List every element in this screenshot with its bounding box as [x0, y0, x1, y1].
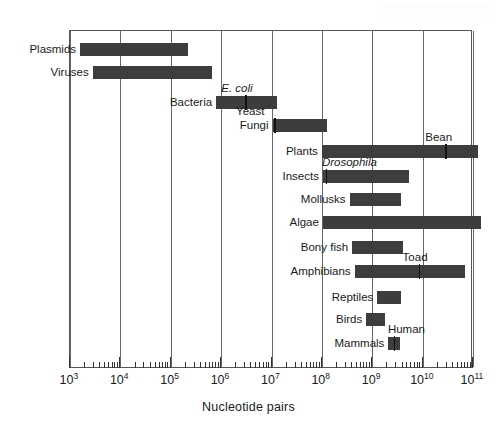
range-bar	[323, 216, 481, 229]
axis-tick-minor	[313, 362, 314, 368]
axis-tick-minor	[200, 362, 201, 368]
axis-tick-minor	[414, 362, 415, 368]
axis-tick-minor	[84, 362, 85, 368]
genome-size-range-chart: PlasmidsVirusesBacteriaE. coliFungiYeast…	[0, 0, 497, 434]
axis-tick-minor	[363, 362, 364, 368]
axis-tick-minor	[114, 362, 115, 368]
axis-tick-minor	[218, 362, 219, 368]
bar-label-birds: Birds	[336, 313, 362, 326]
bar-row: BacteriaE. coli	[70, 96, 471, 109]
marker-label-e-coli: E. coli	[221, 82, 252, 94]
axis-tick-major-1e9	[371, 357, 372, 368]
axis-tick-minor	[306, 362, 307, 368]
axis-tick-minor	[319, 362, 320, 368]
bar-row: Plasmids	[70, 43, 471, 56]
range-bar	[273, 119, 327, 132]
axis-tick-minor	[452, 362, 453, 368]
bar-label-insects: Insects	[282, 170, 318, 183]
marker-label-yeast: Yeast	[236, 105, 264, 117]
bar-row: Algae	[70, 216, 471, 229]
axis-tick-minor	[167, 362, 168, 368]
axis-tick-minor	[446, 362, 447, 368]
marker-tick-human	[394, 336, 396, 351]
bar-row: FungiYeast	[70, 119, 471, 132]
axis-tick-minor	[417, 362, 418, 368]
bar-label-viruses: Viruses	[51, 66, 89, 79]
axis-tick-label-1e3: 103	[60, 373, 79, 387]
bar-label-algae: Algae	[289, 216, 318, 229]
axis-tick-minor	[159, 362, 160, 368]
axis-tick-minor	[470, 362, 471, 368]
axis-tick-minor	[209, 362, 210, 368]
marker-tick-drosophila	[326, 169, 328, 184]
axis-tick-label-1e6: 106	[211, 373, 230, 387]
range-bar	[93, 66, 212, 79]
axis-tick-major-1e6	[220, 357, 221, 368]
axis-tick-minor	[215, 362, 216, 368]
axis-tick-minor	[316, 362, 317, 368]
axis-tick-label-1e10: 1010	[410, 373, 433, 387]
axis-tick-minor	[437, 362, 438, 368]
axis-tick-minor	[135, 362, 136, 368]
axis-tick-minor	[268, 362, 269, 368]
axis-tick-minor	[112, 362, 113, 368]
axis-tick-label-1e7: 107	[261, 373, 280, 387]
axis-tick-minor	[165, 362, 166, 368]
range-bar	[80, 43, 188, 56]
bar-label-reptiles: Reptiles	[332, 291, 374, 304]
axis-tick-minor	[250, 362, 251, 368]
axis-tick-minor	[301, 362, 302, 368]
axis-tick-label-1e4: 104	[110, 373, 129, 387]
axis-tick-minor	[395, 362, 396, 368]
bar-label-bony-fish: Bony fish	[301, 241, 348, 254]
axis-tick-minor	[310, 362, 311, 368]
axis-tick-minor	[295, 362, 296, 368]
axis-tick-minor	[351, 362, 352, 368]
marker-tick-bean	[445, 144, 447, 159]
marker-tick-toad	[419, 264, 421, 279]
axis-tick-minor	[360, 362, 361, 368]
bar-label-amphibians: Amphibians	[291, 265, 351, 278]
axis-tick-label-1e9: 109	[362, 373, 381, 387]
range-bar	[323, 170, 409, 183]
bar-label-bacteria: Bacteria	[170, 96, 212, 109]
axis-tick-minor	[467, 362, 468, 368]
bar-label-plants: Plants	[286, 145, 318, 158]
axis-tick-minor	[150, 362, 151, 368]
axis-tick-minor	[185, 362, 186, 368]
range-bar	[366, 313, 385, 326]
range-bar	[352, 241, 403, 254]
axis-tick-major-1e7	[271, 357, 272, 368]
bar-row: InsectsDrosophila	[70, 170, 471, 183]
range-bar	[377, 291, 401, 304]
axis-tick-minor	[212, 362, 213, 368]
axis-tick-label-1e11: 1011	[461, 373, 484, 387]
bar-row: Reptiles	[70, 291, 471, 304]
bar-label-mammals: Mammals	[335, 337, 385, 350]
bar-row: MammalsHuman	[70, 337, 471, 350]
axis-tick-minor	[117, 362, 118, 368]
marker-label-toad: Toad	[403, 251, 428, 263]
bar-row: Mollusks	[70, 193, 471, 206]
axis-tick-minor	[461, 362, 462, 368]
axis-tick-major-1e5	[170, 357, 171, 368]
axis-tick-minor	[410, 362, 411, 368]
axis-tick-minor	[104, 362, 105, 368]
range-bar	[350, 193, 402, 206]
marker-tick-yeast	[274, 118, 276, 133]
axis-tick-minor	[345, 362, 346, 368]
axis-tick-major-1e3	[69, 357, 70, 368]
axis-tick-minor	[286, 362, 287, 368]
axis-tick-minor	[244, 362, 245, 368]
axis-tick-minor	[194, 362, 195, 368]
axis-tick-major-1e10	[422, 357, 423, 368]
axis-tick-minor	[235, 362, 236, 368]
range-bar	[355, 265, 466, 278]
bar-row: Viruses	[70, 66, 471, 79]
x-axis-title: Nucleotide pairs	[0, 400, 497, 414]
axis-tick-major-1e8	[321, 357, 322, 368]
axis-tick-minor	[457, 362, 458, 368]
axis-tick-minor	[259, 362, 260, 368]
axis-tick-minor	[356, 362, 357, 368]
bar-label-plasmids: Plasmids	[29, 43, 76, 56]
